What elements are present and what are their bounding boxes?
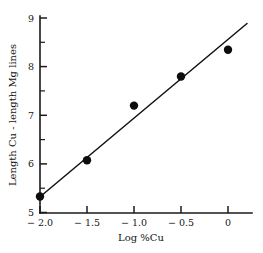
chart-figure: 5 6 7 8 9 − 2.0 − 1.5 − 1.0 − 0.5 0 Log … (0, 0, 263, 253)
x-tick-label-neg0-5: − 0.5 (168, 217, 194, 228)
regression-line (38, 24, 247, 199)
y-tick-label-6: 6 (28, 158, 34, 169)
x-tick-label-neg2: − 2.0 (27, 217, 53, 228)
data-point (130, 101, 138, 109)
y-axis-title: Length Cu - length Mg lines (7, 44, 18, 186)
data-point (83, 156, 91, 164)
data-point (36, 192, 44, 200)
data-point (224, 46, 232, 54)
x-axis-title: Log %Cu (118, 232, 164, 243)
x-tick-label-neg1: − 1.0 (121, 217, 147, 228)
y-tick-label-7: 7 (28, 110, 34, 121)
scatter-plot: 5 6 7 8 9 − 2.0 − 1.5 − 1.0 − 0.5 0 Log … (0, 0, 263, 253)
y-tick-label-8: 8 (28, 61, 34, 72)
y-tick-label-9: 9 (28, 13, 34, 24)
data-point (177, 72, 185, 80)
x-tick-label-0: 0 (225, 217, 231, 228)
x-tick-label-neg1-5: − 1.5 (74, 217, 100, 228)
